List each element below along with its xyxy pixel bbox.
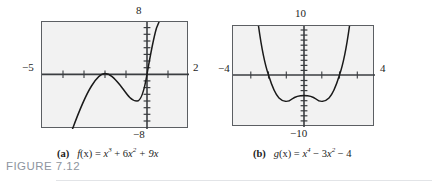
panel-b-xmax-label: 4 — [380, 63, 386, 74]
panel-b-plot-svg — [233, 26, 375, 127]
panel-a-curve — [73, 22, 160, 129]
panel-a-xmin-label: −5 — [22, 62, 34, 73]
panel-a-ymax-label: 8 — [136, 5, 142, 16]
panel-b-term2-op: − 3 — [311, 148, 327, 159]
panel-a-term2-op: + 6 — [112, 148, 128, 159]
panel-b-tag: (b) — [253, 148, 266, 159]
panel-a-ymin-label: −8 — [133, 129, 145, 140]
panel-b-caption: (b) g(x) = x4 − 3x2 − 4 — [253, 147, 352, 159]
panel-a-plot-box — [41, 21, 188, 128]
panel-b-fn-arg: (x) = — [279, 148, 302, 159]
panel-b-term3: − 4 — [335, 148, 351, 159]
panel-a-xmax-label: 2 — [193, 62, 199, 73]
panel-a-tag: (a) — [57, 148, 69, 159]
panel-b-xmin-label: −4 — [218, 63, 230, 74]
figure-container: 8 −5 2 −8 — [0, 0, 440, 191]
bottom-divider — [56, 180, 432, 181]
panel-a-caption: (a) f(x) = x3 + 6x2 + 9x — [57, 147, 158, 159]
panel-b-plot-box — [232, 25, 374, 126]
panel-a-fn-arg: (x) = — [80, 148, 103, 159]
panel-a-plot-svg — [42, 22, 189, 129]
panel-b-ymin-label: −10 — [290, 128, 307, 139]
panel-b-ymax-label: 10 — [295, 8, 306, 19]
figure-number-label: FIGURE 7.12 — [6, 161, 80, 173]
panel-a-term3: + 9x — [136, 148, 158, 159]
